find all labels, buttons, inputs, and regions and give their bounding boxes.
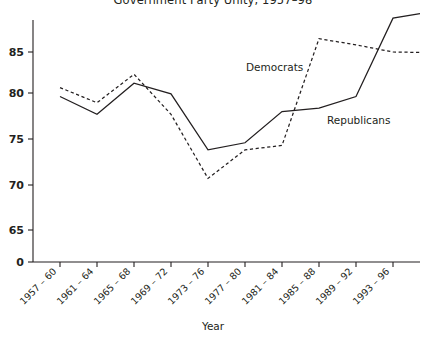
x-tick-label: 1989 – 92 bbox=[313, 266, 354, 307]
y-tick-label: 0 bbox=[16, 256, 24, 269]
x-tick-label: 1969 – 72 bbox=[128, 266, 169, 307]
y-tick-label: 80 bbox=[9, 87, 25, 100]
x-tick-label: 1981 – 84 bbox=[239, 266, 280, 307]
x-axis-title: Year bbox=[201, 320, 225, 332]
y-tick-label: 70 bbox=[9, 179, 25, 192]
x-tick-label: 1977 – 80 bbox=[202, 266, 243, 307]
y-axis-ticks bbox=[28, 52, 33, 262]
x-tick-label: 1961 – 64 bbox=[54, 266, 95, 307]
x-axis-ticks bbox=[60, 262, 393, 267]
y-axis-tick-labels: 85 80 75 70 65 0 bbox=[9, 46, 25, 269]
x-tick-label: 1957 – 60 bbox=[17, 266, 58, 307]
x-tick-label: 1965 – 68 bbox=[91, 266, 132, 307]
x-tick-label: 1993 – 96 bbox=[350, 266, 391, 307]
series-annotation-democrats: Democrats bbox=[246, 61, 303, 73]
series-line-democrats bbox=[60, 39, 420, 179]
series-line-republicans bbox=[60, 14, 420, 150]
x-tick-label: 1985 – 88 bbox=[276, 266, 317, 307]
chart-container: Government Party Unity, 1957–98 85 80 75… bbox=[0, 0, 426, 339]
x-axis-tick-labels: 1957 – 60 1961 – 64 1965 – 68 1969 – 72 … bbox=[17, 266, 391, 307]
y-tick-label: 65 bbox=[9, 224, 24, 237]
y-tick-label: 75 bbox=[9, 133, 24, 146]
series-annotation-republicans: Republicans bbox=[327, 114, 390, 126]
x-tick-label: 1973 – 76 bbox=[165, 266, 206, 307]
y-tick-label: 85 bbox=[9, 46, 24, 59]
chart-plot-area: 85 80 75 70 65 0 1957 – 60 1961 – 64 196… bbox=[0, 0, 426, 339]
